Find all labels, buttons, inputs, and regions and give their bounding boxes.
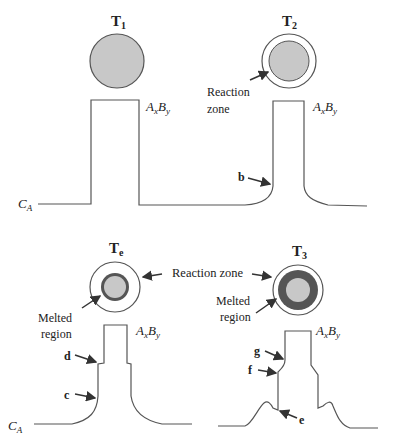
melt-label-t3: Melted (216, 294, 250, 308)
arrow-icon (75, 355, 96, 362)
arrow-icon (280, 411, 297, 418)
arrow-icon (258, 370, 276, 373)
point-label-e: e (299, 413, 305, 427)
reaction-zone-label: Reaction zone (172, 266, 244, 280)
axis-label-ca-bottom: CA (8, 418, 23, 435)
title-te: Te (109, 240, 124, 258)
point-label-f: f (248, 363, 253, 377)
diffusion-diagram: T1 AxBy CA T2 Reaction zone AxBy b Te Me… (0, 0, 394, 442)
point-label-d: d (64, 349, 71, 363)
panel-t2: T2 Reaction zone AxBy b (207, 13, 367, 206)
phase-label-te: AxBy (135, 323, 160, 340)
particle-core-te (104, 276, 126, 298)
arrow-icon (248, 178, 270, 184)
melt-label-te: Melted (38, 311, 72, 325)
point-label-g: g (254, 344, 260, 358)
particle-t1 (90, 34, 144, 88)
phase-label-t3: AxBy (315, 323, 340, 340)
arrow-icon (252, 274, 271, 277)
title-t2: T2 (282, 13, 297, 31)
panel-te: Te Melted region AxBy d c CA (8, 240, 192, 435)
arrow-icon (250, 72, 268, 80)
axis-label-ca-top: CA (18, 196, 33, 213)
arrow-icon (265, 351, 283, 359)
particle-t2 (269, 41, 309, 81)
title-t1: T1 (111, 13, 126, 31)
point-label-b: b (238, 170, 245, 184)
concentration-profile-t3 (218, 331, 378, 428)
arrow-icon (256, 299, 276, 313)
phase-label-t2: AxBy (312, 99, 337, 116)
arrow-icon (75, 394, 95, 398)
concentration-profile-t2 (245, 101, 367, 206)
title-t3: T3 (292, 243, 307, 261)
zone-label-t2-line2: zone (207, 102, 230, 116)
particle-core-t3 (286, 278, 310, 302)
point-label-c: c (64, 388, 70, 402)
zone-label-t2: Reaction (207, 85, 250, 99)
melt-label-te-line2: region (41, 327, 72, 341)
phase-label-t1: AxBy (145, 99, 170, 116)
melt-label-t3-line2: region (220, 310, 251, 324)
arrow-icon (143, 274, 162, 277)
